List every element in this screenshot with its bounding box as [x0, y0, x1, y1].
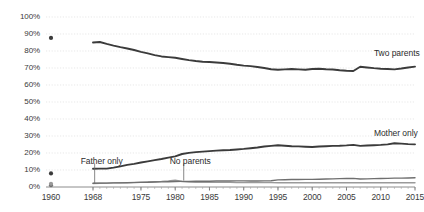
y-axis-tick-label: 90% — [0, 30, 40, 38]
series-label-no-parents: No parents — [170, 157, 211, 166]
x-axis-tick-label: 1985 — [200, 193, 219, 202]
y-axis-tick-label: 70% — [0, 64, 40, 72]
y-axis-tick-label: 30% — [0, 132, 40, 140]
x-axis-tick-label: 1960 — [42, 193, 61, 202]
y-axis-tick-label: 40% — [0, 115, 40, 123]
x-axis-tick-label: 1980 — [166, 193, 185, 202]
x-axis-tick-label: 1995 — [269, 193, 288, 202]
y-axis-tick-label: 80% — [0, 47, 40, 55]
y-axis-tick-label: 10% — [0, 166, 40, 174]
y-axis-tick-label: 60% — [0, 81, 40, 89]
x-axis-tick-label: 1968 — [84, 193, 103, 202]
x-axis-tick-label: 2000 — [303, 193, 322, 202]
x-axis-tick-label: 2015 — [406, 193, 424, 202]
x-axis-tick-label: 2005 — [337, 193, 356, 202]
y-axis-tick-label: 20% — [0, 149, 40, 157]
series-label-mother-only: Mother only — [374, 129, 418, 138]
y-axis-tick-label: 50% — [0, 98, 40, 106]
series-label-father-only: Father only — [81, 157, 123, 166]
series-line — [93, 42, 415, 71]
series-line — [93, 143, 415, 169]
data-point-1960 — [49, 36, 53, 40]
y-axis-tick-label: 100% — [0, 13, 40, 21]
data-point-1960 — [49, 182, 53, 186]
y-axis-tick-label: 0% — [0, 183, 40, 191]
x-axis-tick-label: 1975 — [132, 193, 151, 202]
data-point-1960 — [49, 171, 53, 175]
x-axis-tick-label: 1990 — [234, 193, 253, 202]
series-label-two-parents: Two parents — [374, 49, 420, 58]
x-axis-tick-label: 2010 — [371, 193, 390, 202]
